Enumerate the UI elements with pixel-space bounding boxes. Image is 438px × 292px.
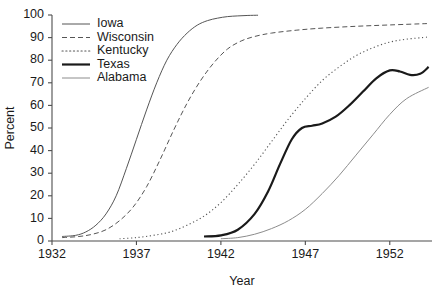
x-axis: 19321937194219471952 — [38, 241, 432, 261]
y-tick-label: 60 — [30, 98, 44, 112]
y-tick-group: 0102030405060708090100 — [23, 7, 52, 247]
x-tick-group: 19321937194219471952 — [38, 241, 404, 261]
x-tick-label: 1952 — [376, 247, 404, 261]
y-tick-label: 80 — [30, 52, 44, 66]
legend-label-texas[interactable]: Texas — [97, 57, 130, 71]
y-axis-label: Percent — [3, 106, 17, 150]
legend-label-iowa[interactable]: Iowa — [97, 16, 123, 30]
legend-label-alabama[interactable]: Alabama — [97, 70, 146, 84]
y-tick-label: 50 — [30, 120, 44, 134]
y-axis: 0102030405060708090100 — [23, 7, 52, 247]
chart-container: 0102030405060708090100 19321937194219471… — [0, 0, 438, 292]
x-tick-label: 1932 — [38, 247, 66, 261]
legend-label-kentucky[interactable]: Kentucky — [97, 43, 149, 57]
y-tick-label: 0 — [37, 233, 44, 247]
x-tick-label: 1947 — [291, 247, 319, 261]
y-tick-label: 70 — [30, 75, 44, 89]
legend-label-wisconsin[interactable]: Wisconsin — [97, 30, 154, 44]
y-tick-label: 30 — [30, 165, 44, 179]
y-tick-label: 90 — [30, 30, 44, 44]
x-tick-label: 1937 — [123, 247, 151, 261]
x-tick-label: 1942 — [207, 247, 235, 261]
line-chart: 0102030405060708090100 19321937194219471… — [0, 0, 438, 292]
y-tick-label: 100 — [23, 7, 44, 21]
y-tick-label: 40 — [30, 143, 44, 157]
y-tick-label: 10 — [30, 211, 44, 225]
series-line-texas — [204, 67, 429, 237]
y-tick-label: 20 — [30, 188, 44, 202]
series-line-kentucky — [120, 37, 427, 239]
legend: IowaWisconsinKentuckyTexasAlabama — [62, 16, 154, 84]
x-axis-label: Year — [229, 274, 254, 288]
